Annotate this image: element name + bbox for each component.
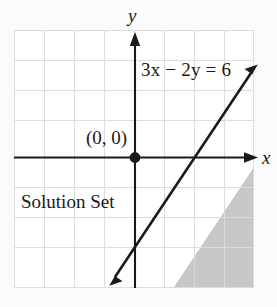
axis-label-y: y xyxy=(128,6,136,25)
solution-set-label: Solution Set xyxy=(21,192,114,211)
origin-point-dot xyxy=(130,152,141,163)
inequality-graph-figure: y x 3x − 2y = 6 (0, 0) Solution Set xyxy=(0,0,277,307)
origin-point-label: (0, 0) xyxy=(86,128,127,147)
axis-label-x: x xyxy=(262,148,270,167)
equation-label: 3x − 2y = 6 xyxy=(141,60,231,79)
coordinate-plane-svg xyxy=(0,0,277,307)
